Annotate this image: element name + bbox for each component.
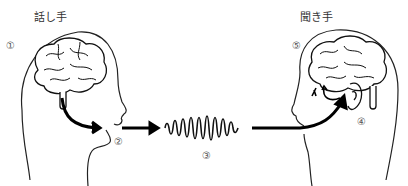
listener-brain-icon	[309, 36, 387, 109]
listener-label: 聞き手	[300, 8, 333, 24]
sound-wave-icon	[165, 116, 238, 140]
step-marker-1: ①	[6, 40, 15, 51]
step-marker-4: ④	[357, 116, 366, 127]
step-marker-2: ②	[114, 136, 123, 147]
step-marker-5: ⑤	[292, 40, 301, 51]
mouth-to-wave-arrow-icon	[122, 123, 158, 133]
step-marker-3: ③	[202, 150, 211, 161]
speaker-arrow-icon	[62, 98, 100, 133]
speaker-brain-icon	[35, 38, 107, 109]
speaker-label: 話し手	[34, 8, 67, 24]
